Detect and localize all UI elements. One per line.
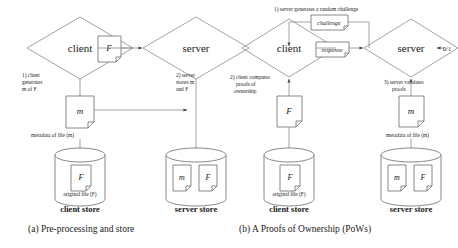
panel-a-step1-line3: m of F <box>22 86 36 92</box>
panel-b-proof-box-label: F <box>285 106 292 116</box>
panel-a-group: client F server 1) client generates m of… <box>22 17 249 214</box>
panel-b-caption: (b) A Proofs of Ownership (PoWs) <box>239 224 371 234</box>
panel-a-server-doc-F-label: F <box>205 173 211 182</box>
panel-b-step2-line1: 2) client computes <box>230 74 270 81</box>
panel-b-metadata-box-label: m <box>408 106 415 116</box>
panel-a-server-node[interactable]: server <box>143 17 249 79</box>
panel-b-metadata-caption: metadata of file (m) <box>386 132 429 139</box>
panel-a-step2-line1: 2) server <box>176 72 195 79</box>
panel-b-client-label: client <box>277 42 301 54</box>
panel-a-step2-line2: stores m <box>176 79 195 85</box>
panel-a-server-store-doc-F: F <box>199 165 217 191</box>
panel-a-server-store-label: server store <box>175 204 218 214</box>
panel-a-original-caption: original file (F) <box>63 191 96 198</box>
panel-b-server-store-doc-m: m <box>388 165 406 191</box>
panel-b-metadata-box[interactable]: m <box>399 96 424 127</box>
panel-a-server-doc-m-label: m <box>179 173 185 182</box>
panel-b-challenge-box[interactable]: challenge <box>311 15 348 30</box>
panel-a-client-store-doc-F: F <box>71 165 91 191</box>
panel-b-original-caption: original file (F) <box>272 191 305 198</box>
panel-a-client-store-label: client store <box>60 204 100 214</box>
panel-b-challenge-label: challenge <box>317 20 341 26</box>
panel-b-step2-line3: ownership <box>234 88 257 94</box>
panel-a-step1-line1: 1) client <box>22 72 40 79</box>
panel-b-proof-box[interactable]: F <box>277 96 302 127</box>
panel-b-server-doc-m-label: m <box>394 173 400 182</box>
panel-a-step2-line3: and F <box>176 86 188 92</box>
panel-a-step1-annotation: 1) client generates m of F <box>22 72 42 92</box>
panel-b-challenge-path-right <box>348 22 369 48</box>
panel-b-response-box[interactable]: response <box>316 42 349 57</box>
panel-a-metadata-box-label: m <box>77 106 84 116</box>
panel-a-metadata-box[interactable]: m <box>66 96 94 128</box>
panel-a-step1-line2: generates <box>22 79 42 85</box>
panel-b-client-doc-label: F <box>287 173 293 182</box>
panel-a-metadata-caption: metadata of file (m) <box>31 132 74 139</box>
panel-a-step2-annotation: 2) server stores m and F <box>176 72 195 92</box>
panel-a-client-store[interactable]: F original file (F) <box>55 148 105 206</box>
panel-a-server-label: server <box>183 42 210 54</box>
panel-b-server-store-doc-F: F <box>414 165 432 191</box>
panel-a-client-doc-label: F <box>78 173 84 182</box>
panel-b-step1-annotation: 1) server generates a random challenge <box>274 6 359 13</box>
panel-b-client-store-doc-F: F <box>280 165 300 191</box>
panel-a-client-label: client <box>68 42 92 54</box>
panel-b-client-store[interactable]: F original file (F) <box>264 148 314 206</box>
panel-b-step3-annotation: 3) server validates proofs <box>384 79 424 92</box>
panel-b-step3-line1: 3) server validates <box>384 79 424 86</box>
panel-b-step2-annotation: 2) client computes proofs of ownership <box>230 74 270 94</box>
panel-a-server-store[interactable]: m F <box>166 148 226 206</box>
panel-a-caption: (a) Pre-processing and store <box>28 224 134 234</box>
panel-b-step3-line2: proofs <box>392 86 406 92</box>
diagram-canvas: client F server 1) client generates m of… <box>0 0 458 248</box>
panel-b-step2-line2: proofs of <box>236 81 256 87</box>
panel-b-server-label: server <box>398 42 425 54</box>
panel-b-server-store-label: server store <box>390 204 433 214</box>
panel-b-group: 1) server generates a random challenge c… <box>230 6 458 214</box>
figure-root: client F server 1) client generates m of… <box>0 0 458 248</box>
panel-a-server-store-doc-m: m <box>173 165 191 191</box>
panel-b-server-store[interactable]: m F <box>381 148 441 206</box>
panel-a-file-box[interactable]: F <box>98 36 121 62</box>
panel-b-server-doc-F-label: F <box>420 173 426 182</box>
panel-b-client-store-label: client store <box>269 204 309 214</box>
panel-b-output-label: 0/1 <box>443 45 451 52</box>
